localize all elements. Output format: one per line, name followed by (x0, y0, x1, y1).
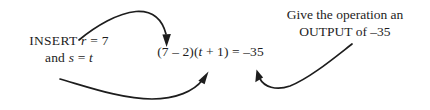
insert-to-equation-bottom-arrow-head (198, 72, 208, 85)
variable-t: t (89, 50, 93, 65)
and-keyword: and (45, 50, 69, 65)
insert-keyword: INSERT (29, 33, 81, 48)
equals-sign: = (74, 50, 89, 65)
insert-to-equation-bottom-arrow (60, 72, 209, 100)
equation-part-2: + 1) = –35 (202, 44, 263, 59)
output-to-equation-arrow-head (255, 70, 263, 83)
output-annotation-line-2: OUTPUT of –35 (262, 24, 428, 40)
insert-annotation-line-2: and s = t (4, 50, 134, 66)
insert-annotation-line-1: INSERT r = 7 (4, 33, 134, 49)
insert-value-r: = 7 (86, 33, 108, 48)
equation-expression: (7 – 2)(t + 1) = –35 (138, 44, 283, 60)
insert-to-equation-bottom-arrow-path (60, 79, 203, 99)
output-annotation: Give the operation an OUTPUT of –35 (262, 7, 428, 40)
insert-annotation: INSERT r = 7 and s = t (4, 33, 134, 66)
output-annotation-line-1: Give the operation an (262, 7, 428, 23)
diagram-canvas: INSERT r = 7 and s = t (7 – 2)(t + 1) = … (0, 0, 430, 110)
equation-line: (7 – 2)(t + 1) = –35 (138, 44, 283, 60)
equation-part-1: (7 – 2)( (157, 44, 198, 59)
